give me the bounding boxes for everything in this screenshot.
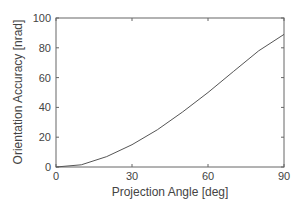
x-tick-label: 30 bbox=[126, 170, 138, 182]
x-tick-label: 90 bbox=[278, 170, 290, 182]
y-axis-label: Orientation Accuracy [nrad] bbox=[11, 20, 25, 165]
y-tick-label: 0 bbox=[45, 161, 51, 173]
y-tick-label: 40 bbox=[39, 101, 51, 113]
plot-frame bbox=[56, 18, 284, 167]
x-axis-label: Projection Angle [deg] bbox=[112, 185, 229, 199]
x-tick-label: 60 bbox=[202, 170, 214, 182]
y-axis-ticks: 020406080100 bbox=[33, 12, 284, 173]
y-tick-label: 80 bbox=[39, 42, 51, 54]
x-tick-label: 0 bbox=[53, 170, 59, 182]
y-tick-label: 60 bbox=[39, 72, 51, 84]
line-chart: 020406080100 0306090 Projection Angle [d… bbox=[0, 0, 302, 209]
x-axis-ticks: 0306090 bbox=[53, 18, 290, 182]
data-line bbox=[56, 34, 284, 167]
y-tick-label: 20 bbox=[39, 131, 51, 143]
y-tick-label: 100 bbox=[33, 12, 51, 24]
